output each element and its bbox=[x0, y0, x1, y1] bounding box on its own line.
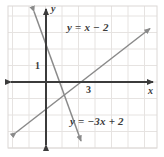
y-axis-label: y bbox=[51, 3, 55, 14]
x-axis-label: x bbox=[148, 85, 153, 96]
equation-line2-y: y bbox=[70, 115, 75, 127]
equation-label-line1: y = x − 2 bbox=[67, 21, 109, 33]
graph-figure: y x 1 3 y = x − 2 y = −3x + 2 bbox=[0, 0, 164, 157]
equation-line2-rhs: −3x + 2 bbox=[87, 115, 123, 127]
equation-line1-y: y bbox=[67, 21, 72, 33]
y-tick-label-1: 1 bbox=[35, 60, 40, 71]
equation-line1-rhs: x − 2 bbox=[84, 21, 108, 33]
x-tick-label-3: 3 bbox=[86, 84, 91, 95]
equation-label-line2: y = −3x + 2 bbox=[70, 115, 124, 127]
equation-line1-equals: = bbox=[75, 21, 81, 33]
equation-line2-equals: = bbox=[78, 115, 84, 127]
